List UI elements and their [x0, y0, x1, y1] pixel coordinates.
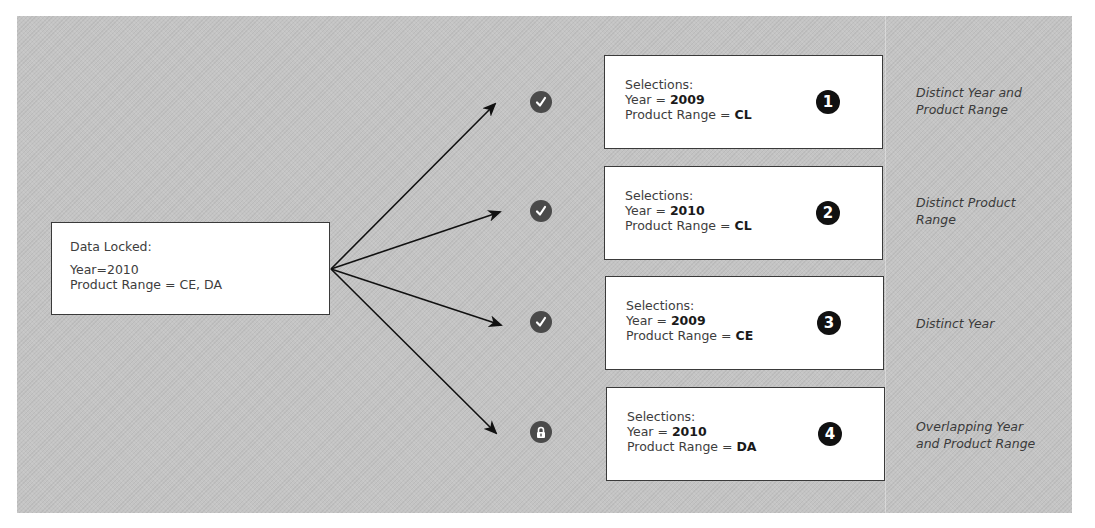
selection-box-2: Selections: Year = 2010 Product Range = … — [604, 166, 883, 260]
selection-box-3: Selections: Year = 2009 Product Range = … — [605, 276, 884, 370]
number-badge-3: 3 — [817, 311, 841, 335]
number-badge-2: 2 — [816, 201, 840, 225]
description-3: Distinct Year — [916, 315, 1056, 332]
selection-box-1: Selections: Year = 2009 Product Range = … — [604, 55, 883, 149]
number-badge-4: 4 — [818, 422, 842, 446]
arrow-2 — [331, 212, 500, 269]
description-2: Distinct Product Range — [916, 194, 1056, 228]
number-badge-1: 1 — [816, 90, 840, 114]
check-circle-icon — [530, 91, 552, 113]
lock-circle-icon — [530, 421, 552, 443]
data-locked-title: Data Locked: — [70, 239, 311, 254]
locked-year: Year=2010 — [70, 262, 311, 277]
data-locked-box: Data Locked: Year=2010 Product Range = C… — [51, 222, 330, 315]
description-4: Overlapping Year and Product Range — [916, 418, 1056, 452]
arrow-4 — [331, 269, 496, 433]
check-circle-icon — [530, 200, 552, 222]
arrow-3 — [331, 269, 501, 325]
check-circle-icon — [530, 311, 552, 333]
description-1: Distinct Year and Product Range — [916, 84, 1056, 118]
locked-product-range: Product Range = CE, DA — [70, 277, 311, 292]
arrow-1 — [331, 104, 495, 269]
selection-box-4: Selections: Year = 2010 Product Range = … — [606, 387, 885, 481]
